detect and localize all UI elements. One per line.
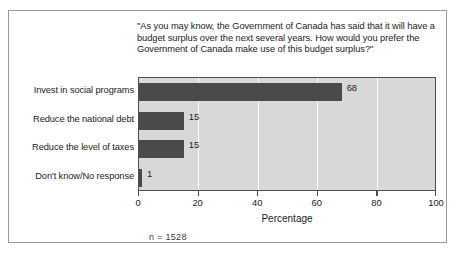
plot-area: 6815151 — [138, 77, 436, 191]
bar-value-label: 1 — [147, 168, 152, 179]
category-label: Don't know/No response — [10, 171, 134, 181]
bar-row: 1 — [139, 164, 435, 193]
axis-tick-label: 100 — [428, 197, 444, 208]
axis-tick — [257, 191, 258, 196]
axis-tick — [376, 191, 377, 196]
axis-tick — [317, 191, 318, 196]
axis-tick-label: 60 — [312, 197, 322, 208]
axis-tick — [138, 191, 139, 196]
gridline — [436, 78, 437, 190]
bar-row: 15 — [139, 135, 435, 164]
bar — [139, 169, 142, 187]
axis-tick-label: 20 — [192, 197, 202, 208]
axis-tick-label: 0 — [135, 197, 140, 208]
category-label: Invest in social programs — [10, 85, 134, 95]
figure-frame: "As you may know, the Government of Cana… — [8, 10, 447, 243]
bar — [139, 83, 342, 101]
bar-row: 68 — [139, 78, 435, 107]
category-label: Reduce the national debt — [10, 114, 134, 124]
axis-tick-label: 40 — [252, 197, 262, 208]
chart-question-text: "As you may know, the Government of Cana… — [137, 21, 437, 56]
axis-tick-label: 80 — [371, 197, 381, 208]
bar-row: 15 — [139, 107, 435, 136]
x-axis-title: Percentage — [138, 213, 436, 224]
bar-value-label: 68 — [347, 82, 357, 93]
axis-tick — [435, 191, 436, 196]
bar — [139, 112, 184, 130]
axis-tick — [198, 191, 199, 196]
bar-chart: Invest in social programsReduce the nati… — [9, 67, 448, 242]
sample-size-note: n = 1528 — [149, 232, 187, 242]
bar-value-label: 15 — [189, 139, 199, 150]
bar — [139, 140, 184, 158]
category-label: Reduce the level of taxes — [10, 142, 134, 152]
category-axis-labels: Invest in social programsReduce the nati… — [9, 77, 134, 191]
bar-value-label: 15 — [189, 111, 199, 122]
